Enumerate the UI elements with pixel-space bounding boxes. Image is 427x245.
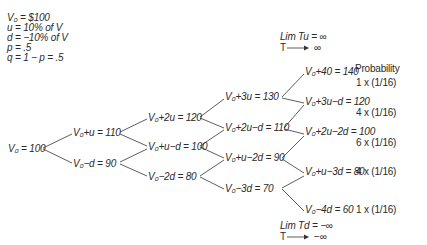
lower-limit-arrow-text: T−∞ — [280, 231, 327, 242]
node-l2-1: V₀+u−d = 100 — [148, 141, 207, 152]
probability-2: 6 x (1/16) — [356, 137, 396, 148]
probability-header: Probability — [355, 63, 400, 74]
node-l4-0: V₀+40 = 140 — [305, 66, 359, 77]
node-l4-4: V₀−4d = 60 — [305, 204, 353, 215]
param-q: q = 1 − p = .5 — [7, 52, 63, 63]
probability-3: 4 x (1/16) — [356, 166, 396, 177]
lower-limit-label: Lim Td = −∞ — [280, 220, 333, 231]
node-l3-3: V₀−3d = 70 — [225, 183, 273, 194]
node-l3-0: V₀+3u = 130 — [225, 91, 279, 102]
node-l2-2: V₀−2d = 80 — [148, 171, 196, 182]
probability-1: 4 x (1/16) — [356, 107, 396, 118]
node-l3-1: V₀+2u−d = 110 — [225, 122, 289, 133]
probability-0: 1 x (1/16) — [356, 77, 396, 88]
node-l1-0: V₀+u = 110 — [73, 127, 121, 138]
node-l1-1: V₀−d = 90 — [73, 158, 116, 169]
node-l4-1: V₀+3u−d = 120 — [305, 96, 370, 107]
node-l3-2: V₀+u−2d = 90 — [225, 152, 284, 163]
node-l2-0: V₀+2u = 120 — [148, 112, 202, 123]
probability-4: 1 x (1/16) — [356, 204, 396, 215]
upper-limit-arrow-text: T∞ — [280, 42, 321, 53]
node-l0-0: V₀ = 100 — [8, 143, 45, 154]
upper-limit-label: Lim Tu = ∞ — [280, 31, 326, 42]
node-l4-2: V₀+2u−2d = 100 — [305, 126, 375, 137]
